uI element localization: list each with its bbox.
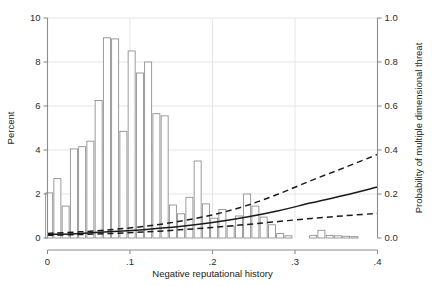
histogram-bar [285,236,292,238]
y-tick-label-1: 2 [35,188,40,199]
x-tick-label-2: .2 [209,256,217,267]
chart-canvas: 02468100.00.20.40.60.81.00.1.2.3.4Negati… [0,0,432,286]
x-tick-label-3: .3 [291,256,299,267]
chart-figure: 02468100.00.20.40.60.81.00.1.2.3.4Negati… [0,0,432,286]
histogram-bar [128,51,135,238]
histogram-bar [136,73,143,238]
x-tick-label-1: .1 [126,256,134,267]
histogram-bar [202,204,209,238]
x-tick-label-4: .4 [374,256,382,267]
y-tick-label-3: 6 [35,100,40,111]
histogram-bar [79,147,86,238]
histogram-bars [46,38,358,238]
histogram-bar [112,39,119,238]
histogram-bar [186,197,193,238]
histogram-bar [310,235,317,238]
histogram-bar [54,179,61,238]
y2-axis-title: Probability of multiple dimensional thre… [413,42,424,213]
histogram-bar [351,237,358,238]
histogram-bar [70,149,77,238]
x-axis-title: Negative reputational history [152,268,273,279]
histogram-bar [169,205,176,238]
histogram-bar [87,141,94,238]
y2-tick-label-0: 0.0 [385,232,398,243]
y-tick-label-4: 8 [35,56,40,67]
y2-tick-label-5: 1.0 [385,12,398,23]
x-tick-label-0: 0 [45,256,50,267]
histogram-bar [227,226,234,238]
histogram-bar [326,235,333,238]
histogram-bar [194,161,201,238]
histogram-bar [334,236,341,238]
y2-tick-label-1: 0.2 [385,188,398,199]
histogram-bar [95,101,102,239]
histogram-bar [46,193,53,238]
histogram-bar [145,62,152,238]
histogram-bar [343,236,350,238]
histogram-bar [277,234,284,238]
histogram-bar [260,217,267,238]
y2-tick-label-4: 0.8 [385,56,398,67]
y-tick-label-0: 0 [35,232,40,243]
histogram-bar [103,38,110,238]
histogram-bar [153,114,160,238]
histogram-bar [268,225,275,238]
y-axis-title: Percent [5,111,16,144]
y-tick-label-5: 10 [30,12,41,23]
y-tick-label-2: 4 [35,144,40,155]
histogram-bar [318,230,325,238]
histogram-bar [161,116,168,238]
histogram-bar [120,131,127,238]
histogram-bar [252,206,259,238]
y2-tick-label-2: 0.4 [385,144,398,155]
y2-tick-label-3: 0.6 [385,100,398,111]
